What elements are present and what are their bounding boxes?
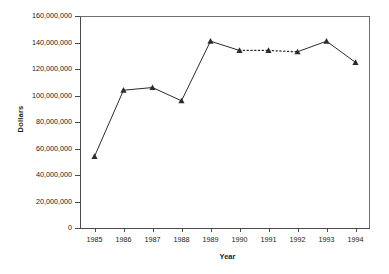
y-axis-tick (75, 96, 80, 97)
x-axis-title: Year (0, 252, 389, 261)
y-axis-tick (75, 149, 80, 150)
data-point-marker (207, 38, 213, 44)
series-segment (327, 41, 356, 62)
series-segment (153, 88, 182, 101)
y-axis-tick (75, 202, 80, 203)
x-axis-title-label: Year (220, 252, 236, 261)
data-point-marker (178, 98, 184, 104)
y-axis-tick (75, 175, 80, 176)
line-chart-figure: Dollars 020,000,00040,000,00060,000,0008… (0, 0, 389, 274)
clipped-caption (4, 266, 254, 274)
data-point-marker (91, 153, 97, 159)
series-segment (298, 41, 327, 52)
y-axis-tick (75, 16, 80, 17)
y-axis-tick (75, 43, 80, 44)
y-axis-tick (75, 69, 80, 70)
series-segment (269, 50, 298, 51)
data-point-marker (323, 38, 329, 44)
y-axis-tick (75, 228, 80, 229)
series-segment (182, 41, 211, 101)
data-point-marker (352, 59, 358, 65)
series-segment (211, 41, 240, 50)
series-segment (124, 88, 153, 91)
series-segment (95, 90, 124, 156)
y-axis-tick (75, 122, 80, 123)
data-series-layer (0, 0, 389, 274)
